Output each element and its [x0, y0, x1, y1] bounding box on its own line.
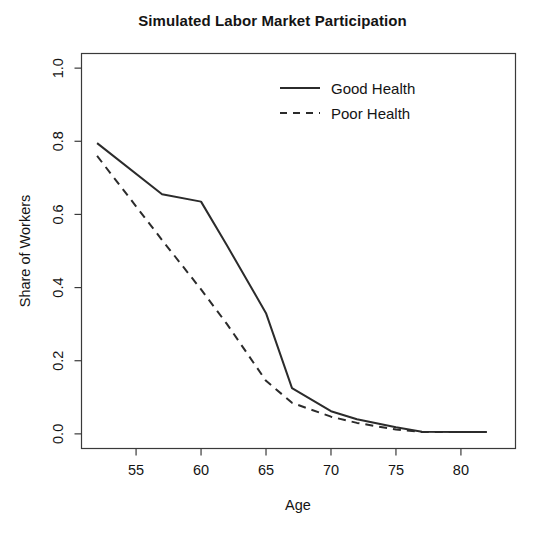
- y-axis-title: Share of Workers: [17, 195, 33, 308]
- y-tick-label: 0.8: [50, 131, 66, 151]
- y-tick-label: 0.0: [50, 424, 66, 444]
- series-line-poor-health: [97, 156, 487, 432]
- y-tick-label: 1.0: [50, 58, 66, 78]
- axes: 0.00.20.40.60.81.0 556065707580: [50, 54, 516, 478]
- y-tick-label: 0.2: [50, 351, 66, 371]
- x-tick-label: 55: [128, 462, 144, 478]
- chart-figure: Simulated Labor Market Participation 0.0…: [0, 0, 545, 547]
- y-tick-label: 0.6: [50, 204, 66, 224]
- y-tick-label: 0.4: [50, 277, 66, 297]
- x-tick-label: 60: [193, 462, 209, 478]
- series-line-good-health: [97, 143, 487, 432]
- x-tick-label: 70: [323, 462, 339, 478]
- x-axis-ticks: [136, 449, 461, 456]
- x-axis-title: Age: [285, 497, 311, 513]
- plot-area: 0.00.20.40.60.81.0 556065707580 Good Hea…: [0, 0, 545, 547]
- x-axis-tick-labels: 556065707580: [128, 462, 469, 478]
- legend-label-poor-health: Poor Health: [331, 105, 410, 122]
- x-tick-label: 80: [453, 462, 469, 478]
- x-tick-label: 65: [258, 462, 274, 478]
- x-tick-label: 75: [388, 462, 404, 478]
- legend-label-good-health: Good Health: [331, 80, 415, 97]
- data-series: [97, 143, 487, 432]
- y-axis-ticks: [75, 68, 82, 434]
- y-axis-tick-labels: 0.00.20.40.60.81.0: [50, 58, 66, 444]
- chart-legend: Good HealthPoor Health: [280, 80, 415, 122]
